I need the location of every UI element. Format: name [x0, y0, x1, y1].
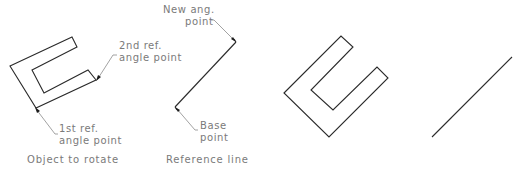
- label-first-ref-line1: 1st ref.: [59, 123, 99, 134]
- arrowhead-second-ref-icon: [96, 75, 101, 81]
- caption-object-to-rotate: Object to rotate: [27, 154, 119, 165]
- u-shape-original: [10, 37, 96, 108]
- label-new-ang-line1: New ang.: [163, 4, 215, 15]
- object-to-rotate: 2nd ref. angle point 1st ref. angle poin…: [10, 37, 182, 165]
- rotated-object-panel: [284, 36, 388, 137]
- reference-line: [175, 42, 236, 107]
- rotated-reference-panel: [432, 57, 512, 137]
- leader-first-ref: [36, 109, 58, 134]
- label-new-ang-line2: point: [185, 16, 214, 27]
- rotate-reference-diagram: 2nd ref. angle point 1st ref. angle poin…: [0, 0, 522, 171]
- label-first-ref-line2: angle point: [59, 135, 122, 146]
- leader-second-ref: [97, 55, 117, 80]
- caption-reference-line: Reference line: [166, 154, 249, 165]
- label-second-ref-line2: angle point: [119, 52, 182, 63]
- reference-line-panel: New ang. point Base point Reference line: [163, 4, 249, 165]
- leader-new-ang: [211, 20, 234, 40]
- rotated-reference-line: [432, 57, 512, 137]
- label-second-ref-line1: 2nd ref.: [119, 40, 162, 51]
- label-base-line1: Base: [200, 120, 227, 131]
- label-base-line2: point: [200, 132, 229, 143]
- u-shape-rotated: [284, 36, 388, 137]
- leader-base: [177, 109, 198, 130]
